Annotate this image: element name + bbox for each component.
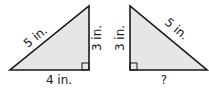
left-horizontal-leg-label: 4 in. (46, 73, 72, 87)
right-vertical-leg-label: 3 in. (113, 25, 127, 51)
right-triangle-shape (130, 6, 207, 70)
right-triangle: 5 in. 3 in. ? (113, 6, 207, 87)
left-vertical-leg-label: 3 in. (90, 25, 104, 51)
right-horizontal-leg-label: ? (161, 73, 167, 87)
triangles-diagram: 5 in. 3 in. 4 in. 5 in. 3 in. ? (0, 0, 209, 100)
left-triangle: 5 in. 3 in. 4 in. (10, 6, 104, 87)
